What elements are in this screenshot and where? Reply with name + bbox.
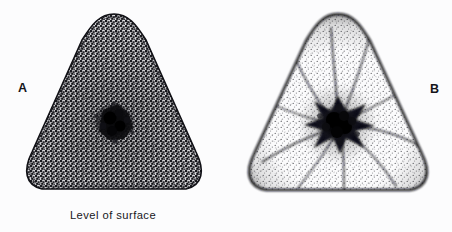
cell-cross-section-b-illustration <box>226 0 452 232</box>
panel-a-body <box>0 0 226 232</box>
panel-b-level-of-nucleus: Level of nucleus <box>226 0 452 232</box>
panel-a-level-of-surface: Level of surface <box>0 0 226 232</box>
panel-label-a: A <box>18 82 27 95</box>
cell-cross-section-a-illustration <box>0 0 226 232</box>
figure-root: Level of surface <box>0 0 452 232</box>
panel-label-b: B <box>430 83 439 96</box>
caption-level-of-surface: Level of surface <box>0 208 226 222</box>
panel-b-body <box>226 0 452 232</box>
